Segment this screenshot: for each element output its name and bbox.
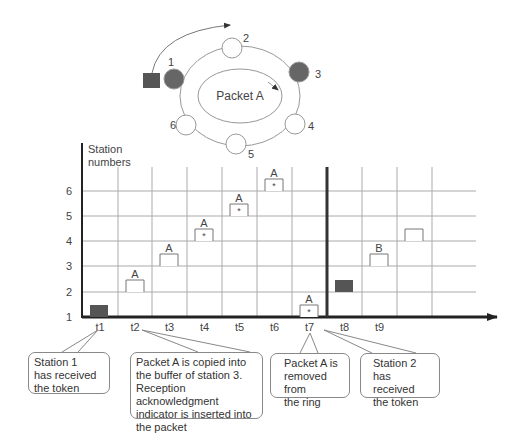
x-tick-t4: t4 <box>200 321 209 333</box>
ack-marker-t5: * <box>237 206 241 216</box>
station-3-label: 3 <box>315 68 321 80</box>
packet-label-t4: A <box>200 217 208 229</box>
station-4-node <box>285 114 305 134</box>
x-tick-t8: t8 <box>340 321 349 333</box>
ack-marker-t6: * <box>272 181 276 191</box>
station-2-label: 2 <box>243 32 249 44</box>
ack-marker-t7: * <box>307 307 311 317</box>
station-6-label: 6 <box>170 119 176 131</box>
x-tick-t7: t7 <box>305 321 314 333</box>
callout-line: Packet A is copied into <box>136 356 257 369</box>
token-marker-t1 <box>90 305 108 317</box>
callout-pointers <box>62 330 416 353</box>
y-tick-1: 1 <box>66 311 72 323</box>
packet-label-t6: A <box>270 167 278 179</box>
station-5-label: 5 <box>248 148 254 160</box>
station-6-node <box>176 115 196 135</box>
packet-label-t2: A <box>131 268 139 280</box>
callout-line: Packet A is <box>284 357 344 370</box>
callout-line: the token <box>34 382 104 395</box>
station-3-node <box>289 62 309 82</box>
y-tick-5: 5 <box>66 210 72 222</box>
station-5-node <box>226 134 246 154</box>
callout-station2-token: Station 2 has received the token <box>360 353 440 398</box>
token-marker-t8 <box>335 280 353 292</box>
y-tick-4: 4 <box>66 235 72 247</box>
callout-line: removed from <box>284 370 344 396</box>
station-1-node <box>164 69 184 89</box>
packet-box-t10 <box>405 229 423 241</box>
callout-line: has received <box>34 369 104 382</box>
y-tick-3: 3 <box>66 260 72 272</box>
callout-line: Station 2 <box>373 357 434 370</box>
callout-packet-copied: Packet A is copied into the buffer of st… <box>130 352 263 419</box>
packet-markers: AAA*A*A*A*B <box>126 167 423 317</box>
y-axis-label: Station <box>88 143 122 155</box>
callout-line: the packet <box>136 421 257 434</box>
callout-station1-token: Station 1 has received the token <box>28 352 110 394</box>
token-icon <box>143 73 160 88</box>
station-4-label: 4 <box>308 120 314 132</box>
callout-packet-removed: Packet A is removed from the ring <box>270 353 350 398</box>
callout-line: the ring <box>284 396 344 409</box>
station-2-node <box>222 38 242 58</box>
x-tick-t2: t2 <box>130 321 139 333</box>
callout-line: Reception acknowledgment <box>136 382 257 408</box>
x-tick-t9: t9 <box>375 321 384 333</box>
packet-box-t2 <box>126 280 144 292</box>
ring-diagram: Packet A 123456 <box>143 25 321 160</box>
x-tick-t6: t6 <box>270 321 279 333</box>
packet-box-t3 <box>160 254 178 266</box>
callout-line: the buffer of station 3. <box>136 369 257 382</box>
packet-a-label: Packet A <box>216 89 263 103</box>
x-tick-t5: t5 <box>235 321 244 333</box>
y-axis-label-2: numbers <box>88 156 131 168</box>
timeline-chart: Station numbers 123456 t1t2t3t4t5t6t7t8t… <box>62 143 497 353</box>
y-tick-labels: 123456 <box>66 185 72 323</box>
packet-label-t3: A <box>165 242 173 254</box>
callout-line: Station 1 <box>34 356 104 369</box>
packet-label-t5: A <box>235 192 243 204</box>
y-tick-2: 2 <box>66 286 72 298</box>
callout-line: indicator is inserted into <box>136 408 257 421</box>
packet-box-t9 <box>370 254 388 266</box>
x-tick-labels: t1t2t3t4t5t6t7t8t9 <box>95 321 384 333</box>
callout-line: has received <box>373 370 434 396</box>
callout-line: the token <box>373 396 434 409</box>
packet-label-t7: A <box>305 293 313 305</box>
station-1-label: 1 <box>168 56 174 68</box>
packet-label-t9: B <box>375 242 382 254</box>
y-tick-6: 6 <box>66 185 72 197</box>
x-tick-t3: t3 <box>165 321 174 333</box>
ack-marker-t4: * <box>202 231 206 241</box>
